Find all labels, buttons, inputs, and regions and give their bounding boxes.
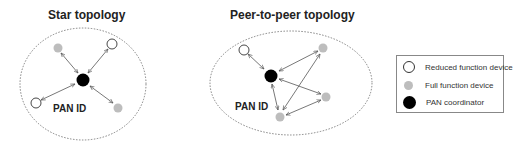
legend-label: PAN coordinator [426,98,484,107]
peer-full-function-device-top-right [319,44,328,53]
legend-label: Full function device [425,81,493,90]
legend-item-pan-coordinator: PAN coordinator [403,94,484,110]
peer-full-function-device-bottom [276,113,285,122]
legend-item-reduced-function-device: Reduced function device [403,59,513,75]
star-pan-id-label: PAN ID [53,103,86,114]
white-circle-icon [403,61,415,73]
star-topology-title: Star topology [48,8,125,22]
star-topology [20,28,146,140]
star-links [41,49,113,103]
peer-pan-id-label: PAN ID [235,101,268,112]
legend-item-full-function-device: Full function device [403,77,493,93]
star-full-function-device-bottom-right [114,104,123,113]
star-reduced-function-device-top-right [107,39,117,49]
black-circle-icon [403,96,416,109]
peer-reduced-function-device [239,45,249,55]
legend: Reduced function device Full function de… [396,55,504,113]
peer-pan-coordinator [265,70,278,83]
star-full-function-device-top-left [54,44,63,53]
peer-to-peer-topology-title: Peer-to-peer topology [230,8,355,22]
gray-circle-icon [404,81,413,90]
legend-label: Reduced function device [425,63,513,72]
peer-to-peer-topology [210,31,372,135]
peer-full-function-device-right [322,93,331,102]
star-reduced-function-device-bottom-left [31,98,41,108]
star-pan-coordinator [77,74,90,87]
